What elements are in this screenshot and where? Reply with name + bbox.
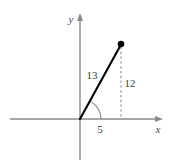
terminal-point-dot [118, 41, 125, 48]
x-axis-label: x [155, 123, 161, 135]
opposite-side-length-label: 12 [125, 77, 136, 89]
angle-arc [91, 102, 101, 119]
coordinate-diagram: y x 13 12 5 [0, 0, 173, 167]
hypotenuse-line [80, 45, 121, 120]
hypotenuse-length-label: 13 [87, 69, 99, 81]
y-axis-label: y [68, 13, 74, 25]
x-axis-arrowhead [155, 116, 163, 122]
triangle-figure: y x 13 12 5 [0, 0, 173, 167]
adjacent-side-length-label: 5 [97, 123, 103, 135]
y-axis-arrowhead [77, 13, 83, 21]
